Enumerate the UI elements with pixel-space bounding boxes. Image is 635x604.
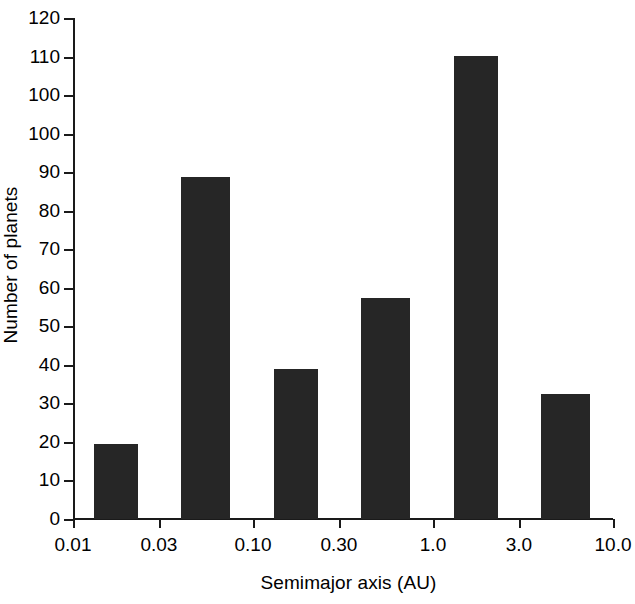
bar — [274, 369, 319, 519]
y-axis-tick — [64, 519, 73, 521]
y-axis-tick-label: 110 — [30, 45, 60, 67]
y-axis-tick-label: 100 — [28, 122, 60, 144]
x-axis-tick-label: 0.03 — [140, 534, 177, 556]
y-axis-tick-label: 70 — [39, 238, 60, 260]
x-axis-tick — [159, 519, 161, 528]
y-axis-tick — [64, 480, 73, 482]
x-axis-tick-label: 1.0 — [420, 534, 446, 556]
y-axis-tick-label: 120 — [28, 7, 60, 29]
bar — [541, 394, 590, 519]
bar — [361, 298, 410, 519]
x-axis-tick-label: 10.0 — [595, 534, 632, 556]
y-axis-tick-label: 90 — [39, 161, 60, 183]
x-axis-tick-label: 3.0 — [506, 534, 532, 556]
y-axis-tick — [64, 134, 73, 136]
y-axis-tick — [64, 95, 73, 97]
y-axis-tick — [64, 211, 73, 213]
y-axis-tick — [64, 18, 73, 20]
y-axis-tick — [64, 365, 73, 367]
y-axis-tick-label: 100 — [28, 84, 60, 106]
bar — [94, 444, 139, 519]
bar — [454, 56, 499, 519]
bar — [181, 177, 230, 519]
x-axis-tick — [519, 519, 521, 528]
x-axis-title: Semimajor axis (AU) — [70, 572, 627, 594]
x-axis-tick — [433, 519, 435, 528]
x-axis-tick — [339, 519, 341, 528]
y-axis-tick-label: 80 — [39, 199, 60, 221]
x-axis-tick — [73, 519, 75, 528]
plot-area: 1201101001009080706050403020100 0.010.03… — [73, 18, 613, 519]
y-axis-tick-label: 60 — [39, 277, 60, 299]
x-axis-tick-label: 0.30 — [320, 534, 357, 556]
y-axis-title-label: Number of planets — [0, 187, 22, 344]
x-axis-tick — [613, 519, 615, 528]
y-axis-tick — [64, 57, 73, 59]
y-axis-tick-label: 30 — [39, 392, 60, 414]
y-axis-tick — [64, 326, 73, 328]
y-axis-title: Number of planets — [0, 0, 22, 604]
x-axis-line — [73, 518, 613, 520]
y-axis-tick — [64, 288, 73, 290]
x-axis-tick-label: 0.10 — [235, 534, 272, 556]
y-axis-tick-label: 40 — [39, 354, 60, 376]
y-axis-tick-label: 10 — [39, 469, 60, 491]
y-axis-tick — [64, 442, 73, 444]
y-axis-line — [73, 18, 75, 519]
y-axis-tick-label: 50 — [39, 315, 60, 337]
x-axis-title-label: Semimajor axis (AU) — [260, 572, 436, 593]
y-axis-tick — [64, 172, 73, 174]
bar-chart: Number of planets 1201101001009080706050… — [0, 0, 635, 604]
y-axis-tick-label: 0 — [49, 508, 60, 530]
y-axis-tick — [64, 249, 73, 251]
x-axis-tick — [253, 519, 255, 528]
y-axis-tick-label: 20 — [39, 431, 60, 453]
y-axis-tick — [64, 403, 73, 405]
x-axis-tick-label: 0.01 — [55, 534, 92, 556]
